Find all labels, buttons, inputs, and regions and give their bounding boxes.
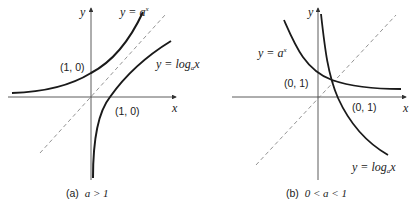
panel-b-y-axis-label: y bbox=[308, 6, 313, 18]
panel-a-exp-point: (1, 0) bbox=[60, 62, 85, 73]
panel-a-y-axis-label: y bbox=[80, 6, 85, 18]
panel-b-exp-label: y = ax bbox=[258, 47, 287, 59]
panel-a-identity-line bbox=[40, 15, 165, 153]
panel-a-x-axis-label: x bbox=[172, 102, 177, 114]
diagram-canvas bbox=[0, 0, 412, 204]
panel-b-identity-line bbox=[256, 15, 396, 165]
panel-a-caption: (a) a > 1 bbox=[66, 188, 109, 199]
panel-a-exp-label: y = ax bbox=[120, 6, 149, 18]
panel-b-caption: (b) 0 < a < 1 bbox=[286, 188, 347, 199]
panel-b-log-label: y = logax bbox=[352, 161, 396, 175]
panel-a-log-point: (1, 0) bbox=[115, 106, 140, 117]
panel-b-exp-point: (0, 1) bbox=[284, 78, 309, 89]
panel-b-x-axis-label: x bbox=[403, 102, 408, 114]
panel-b-log-point: (0, 1) bbox=[352, 102, 377, 113]
panel-a-log-label: y = logax bbox=[156, 58, 200, 72]
panel-a-graph bbox=[8, 8, 176, 180]
panel-b-graph bbox=[232, 8, 406, 180]
panel-b-log-curve bbox=[321, 14, 388, 155]
